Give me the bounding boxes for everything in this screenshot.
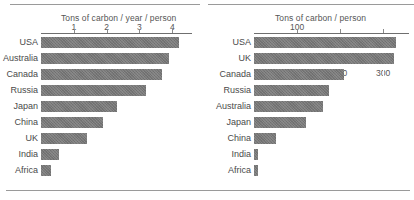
bar-row: Australia <box>0 50 204 66</box>
bar-row: Japan <box>0 98 204 114</box>
bar-row-label: India <box>208 149 251 159</box>
bar <box>41 165 51 176</box>
axis-tickmark <box>340 29 341 33</box>
bar-row-label: USA <box>0 37 38 47</box>
bar-row: Russia <box>0 82 204 98</box>
bar-row: UK <box>204 50 414 66</box>
bar-row-label: Africa <box>208 165 251 175</box>
bar-row-label: Canada <box>0 69 38 79</box>
bar <box>254 101 323 112</box>
axis-tickmark <box>107 29 108 33</box>
bar-row: USA <box>0 34 204 50</box>
bar-row-label: USA <box>208 37 251 47</box>
bar-row: China <box>204 130 414 146</box>
axis-tickmark <box>172 29 173 33</box>
bar-row: USA <box>204 34 414 50</box>
bar-row: Japan <box>204 114 414 130</box>
bar <box>41 85 146 96</box>
bar-row: Canada <box>0 66 204 82</box>
bar-row-label: Japan <box>208 117 251 127</box>
bar <box>254 133 276 144</box>
bar <box>254 165 258 176</box>
bar <box>41 101 117 112</box>
bar-row-label: Russia <box>0 85 38 95</box>
bar-row: Canada <box>204 66 414 82</box>
bar-row: Australia <box>204 98 414 114</box>
bar-row-label: Africa <box>0 165 38 175</box>
bar-row-label: Russia <box>208 85 251 95</box>
bar <box>41 149 59 160</box>
bar-row-label: China <box>0 117 38 127</box>
bar-row-label: India <box>0 149 38 159</box>
bar-row-label: Australia <box>0 53 38 63</box>
axis-tickmark <box>383 29 384 33</box>
bar <box>41 117 103 128</box>
chart-panel-right: Tons of carbon / person 100200300 USAUKC… <box>204 0 414 190</box>
bar-row: India <box>204 146 414 162</box>
axis-tickmark <box>297 29 298 33</box>
bar <box>254 37 396 48</box>
bar-row-label: Japan <box>0 101 38 111</box>
bar <box>254 117 306 128</box>
bar-row: China <box>0 114 204 130</box>
bar-row-label: UK <box>0 133 38 143</box>
bar <box>254 85 329 96</box>
bar-row: India <box>0 146 204 162</box>
bar <box>41 37 179 48</box>
bar <box>254 53 394 64</box>
bar-row: UK <box>0 130 204 146</box>
bar-row: Africa <box>0 162 204 178</box>
bar-row-label: China <box>208 133 251 143</box>
bar <box>254 69 344 80</box>
bar <box>41 133 87 144</box>
axis-tick-labels-left: 1234 <box>0 22 204 33</box>
bar <box>41 53 169 64</box>
bar-row-label: Canada <box>208 69 251 79</box>
bar-row-label: Australia <box>208 101 251 111</box>
figure: Tons of carbon / year / person 1234 USAA… <box>0 0 414 200</box>
bar-row: Russia <box>204 82 414 98</box>
axis-tickmark <box>139 29 140 33</box>
bar <box>254 149 258 160</box>
bar-rows-right: USAUKCanadaRussiaAustraliaJapanChinaIndi… <box>204 34 414 178</box>
chart-panel-left: Tons of carbon / year / person 1234 USAA… <box>0 0 204 190</box>
bar <box>41 69 162 80</box>
bar-row: Africa <box>204 162 414 178</box>
bar-row-label: UK <box>208 53 251 63</box>
bottom-rule <box>6 190 410 191</box>
bar-rows-left: USAAustraliaCanadaRussiaJapanChinaUKIndi… <box>0 34 204 178</box>
axis-tickmark <box>74 29 75 33</box>
